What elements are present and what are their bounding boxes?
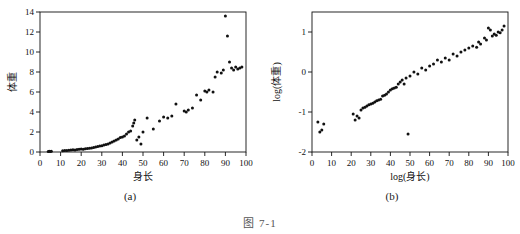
data-point: [452, 53, 455, 56]
data-point: [132, 122, 135, 125]
data-point: [316, 121, 319, 124]
x-tick-label: 50: [406, 158, 416, 168]
y-axis-label: log(体重): [270, 62, 283, 101]
data-point: [352, 113, 355, 116]
x-tick-label: 40: [386, 158, 396, 168]
figure-container: 010203040506070809010002468101214身长体重 (a…: [0, 0, 520, 234]
data-point: [501, 29, 504, 32]
data-point: [137, 136, 140, 139]
data-point: [152, 128, 155, 131]
data-point: [139, 143, 142, 146]
x-tick-label: 100: [239, 158, 253, 168]
x-tick-label: 10: [56, 158, 66, 168]
data-point: [479, 43, 482, 46]
data-point: [240, 66, 243, 69]
data-point: [129, 130, 132, 133]
x-tick-label: 50: [139, 158, 149, 168]
data-point: [495, 34, 498, 37]
data-point: [503, 25, 506, 28]
data-point: [405, 77, 408, 80]
data-point: [420, 67, 423, 70]
data-point: [207, 89, 210, 92]
data-point: [499, 31, 502, 34]
data-point: [428, 65, 431, 68]
data-point: [212, 91, 215, 94]
data-point: [358, 117, 361, 120]
data-point: [174, 103, 177, 106]
data-point: [424, 69, 427, 72]
data-point: [50, 150, 53, 153]
data-point: [475, 46, 478, 49]
data-point: [432, 63, 435, 66]
data-point: [379, 98, 382, 101]
panel-b-plot: 0102030405060708090100-2-101log(身长)log(体…: [268, 4, 516, 194]
data-point: [471, 45, 474, 48]
x-tick-label: 100: [501, 158, 515, 168]
data-point: [131, 125, 134, 128]
y-tick-label: 14: [25, 7, 35, 17]
x-tick-label: 60: [425, 158, 435, 168]
data-point: [456, 55, 459, 58]
data-point: [401, 79, 404, 82]
y-tick-label: 8: [30, 67, 35, 77]
data-point: [222, 69, 225, 72]
x-tick-label: 60: [159, 158, 169, 168]
x-tick-label: 30: [97, 158, 107, 168]
panel-a: 010203040506070809010002468101214身长体重 (a…: [6, 4, 254, 194]
data-point: [436, 59, 439, 62]
data-point: [146, 117, 149, 120]
data-point: [220, 72, 223, 75]
panel-a-plot: 010203040506070809010002468101214身长体重: [6, 4, 254, 194]
x-tick-label: 80: [200, 158, 210, 168]
panel-b-caption: (b): [268, 190, 516, 202]
data-point: [489, 29, 492, 32]
data-point: [354, 119, 357, 122]
x-axis-label: 身长: [133, 170, 153, 182]
data-point: [395, 86, 398, 89]
x-tick-label: 0: [38, 158, 43, 168]
y-axis-label: 体重: [6, 72, 18, 92]
data-point: [448, 59, 451, 62]
data-point: [416, 73, 419, 76]
data-point: [214, 76, 217, 79]
data-point: [170, 115, 173, 118]
x-tick-label: 10: [327, 158, 337, 168]
y-tick-label: -2: [299, 147, 307, 157]
x-tick-label: 20: [347, 158, 357, 168]
data-point: [444, 57, 447, 60]
x-tick-label: 70: [445, 158, 455, 168]
data-point: [403, 83, 406, 86]
data-point: [187, 109, 190, 112]
x-tick-label: 0: [310, 158, 315, 168]
data-point: [195, 94, 198, 97]
data-point: [485, 39, 488, 42]
data-point: [158, 120, 161, 123]
y-tick-label: 0: [30, 147, 35, 157]
data-point: [142, 131, 145, 134]
data-point: [409, 75, 412, 78]
data-point: [133, 119, 136, 122]
data-point: [162, 116, 165, 119]
data-point: [135, 139, 138, 142]
data-point: [320, 129, 323, 132]
x-tick-label: 70: [180, 158, 190, 168]
data-point: [232, 69, 235, 72]
data-point: [467, 47, 470, 50]
y-tick-label: 6: [30, 87, 35, 97]
panel-b: 0102030405060708090100-2-101log(身长)log(体…: [268, 4, 516, 194]
y-tick-label: 0: [302, 67, 307, 77]
x-tick-label: 20: [77, 158, 87, 168]
data-point: [199, 99, 202, 102]
x-tick-label: 90: [221, 158, 231, 168]
x-tick-label: 80: [464, 158, 474, 168]
data-point: [322, 123, 325, 126]
data-point: [440, 61, 443, 64]
scatter-plot-b: 0102030405060708090100-2-101log(身长)log(体…: [268, 4, 516, 194]
x-axis-label: log(身长): [390, 170, 429, 183]
x-tick-label: 90: [484, 158, 494, 168]
figure-number-label: 图 7-1: [0, 214, 520, 230]
data-point: [224, 15, 227, 18]
data-point: [216, 71, 219, 74]
data-point: [226, 35, 229, 38]
data-point: [228, 61, 231, 64]
